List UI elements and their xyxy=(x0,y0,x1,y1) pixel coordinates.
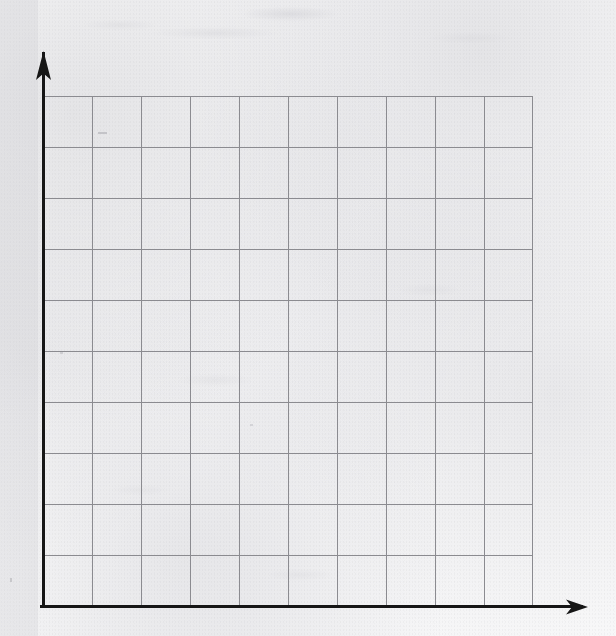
scan-speck xyxy=(10,578,12,582)
x-axis-arrowhead xyxy=(566,598,588,616)
graph-paper-page xyxy=(0,0,616,636)
y-axis-line xyxy=(42,52,45,608)
coordinate-grid xyxy=(43,96,533,606)
grid-outer-border xyxy=(43,96,533,606)
y-axis-arrowhead xyxy=(34,51,53,81)
x-axis-line xyxy=(40,605,583,608)
